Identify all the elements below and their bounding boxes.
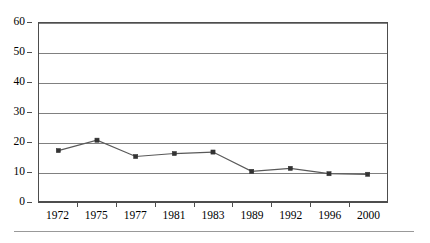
x-tick-label: 1983 bbox=[202, 209, 225, 222]
x-tick-mark bbox=[155, 202, 156, 207]
y-tick-label: 30 bbox=[14, 106, 26, 118]
x-tick-mark bbox=[349, 202, 350, 207]
x-tick-mark bbox=[116, 202, 117, 207]
data-point-marker bbox=[56, 148, 60, 152]
y-tick-mark bbox=[27, 142, 32, 143]
chart-figure: 6050403020100 19721975197719811983198919… bbox=[0, 0, 430, 243]
y-tick-label: 40 bbox=[14, 76, 26, 88]
x-axis-ticks bbox=[38, 202, 388, 208]
data-point-marker bbox=[211, 150, 215, 154]
x-tick-mark bbox=[194, 202, 195, 207]
y-tick-mark bbox=[27, 82, 32, 83]
plot-area bbox=[39, 23, 387, 201]
x-tick-label: 1975 bbox=[85, 209, 108, 222]
y-tick-label: 20 bbox=[14, 136, 26, 148]
y-tick-label: 0 bbox=[19, 196, 25, 208]
data-point-marker bbox=[250, 169, 254, 173]
data-point-marker bbox=[95, 138, 99, 142]
x-tick-mark bbox=[77, 202, 78, 207]
x-tick-mark bbox=[271, 202, 272, 207]
series-line-path bbox=[58, 140, 367, 174]
y-tick-label: 60 bbox=[14, 16, 26, 28]
x-tick-mark bbox=[310, 202, 311, 207]
series-markers bbox=[56, 138, 370, 176]
x-tick-label: 1977 bbox=[124, 209, 147, 222]
plot-frame bbox=[38, 22, 388, 202]
y-tick-mark bbox=[27, 52, 32, 53]
x-tick-mark bbox=[232, 202, 233, 207]
x-tick-label: 1989 bbox=[240, 209, 263, 222]
data-point-marker bbox=[288, 166, 292, 170]
y-tick-label: 10 bbox=[14, 166, 26, 178]
data-point-marker bbox=[327, 172, 331, 176]
y-tick-mark bbox=[27, 202, 32, 203]
line-series bbox=[39, 23, 387, 201]
data-point-marker bbox=[134, 154, 138, 158]
y-tick-label: 50 bbox=[14, 46, 26, 58]
x-tick-label: 1972 bbox=[46, 209, 69, 222]
data-point-marker bbox=[366, 172, 370, 176]
y-tick-mark bbox=[27, 172, 32, 173]
x-tick-label: 1996 bbox=[318, 209, 341, 222]
y-axis: 6050403020100 bbox=[0, 22, 32, 202]
x-tick-label: 2000 bbox=[357, 209, 380, 222]
y-tick-mark bbox=[27, 112, 32, 113]
y-tick-mark bbox=[27, 22, 32, 23]
x-tick-label: 1992 bbox=[279, 209, 302, 222]
x-axis: 197219751977198119831989199219962000 bbox=[38, 209, 388, 227]
x-tick-label: 1981 bbox=[163, 209, 186, 222]
data-point-marker bbox=[172, 151, 176, 155]
footer-rule bbox=[14, 231, 414, 232]
